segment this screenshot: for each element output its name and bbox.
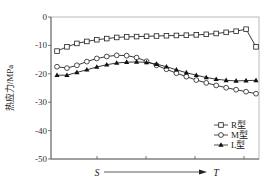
circle-marker-icon: [219, 133, 224, 138]
square-marker-icon: [214, 31, 219, 36]
series-R型: [55, 27, 259, 53]
y-tick-label: -20: [35, 69, 47, 79]
series-layer: [54, 27, 258, 96]
square-marker-icon: [244, 27, 249, 32]
circle-marker-icon: [65, 66, 70, 71]
square-marker-icon: [194, 33, 199, 38]
y-tick-label: -40: [35, 126, 47, 136]
square-marker-icon: [134, 34, 139, 39]
square-marker-icon: [144, 34, 149, 39]
x-start-label: S: [95, 167, 100, 178]
square-marker-icon: [114, 35, 119, 40]
x-end-label: T: [213, 167, 220, 178]
triangle-marker-icon: [253, 78, 258, 83]
s-to-t-arrow: [104, 170, 207, 175]
y-axis: 0-10-20-30-40-50: [35, 12, 51, 164]
triangle-marker-icon: [124, 59, 129, 64]
square-marker-icon: [219, 123, 224, 128]
square-marker-icon: [224, 30, 229, 35]
circle-marker-icon: [84, 59, 89, 64]
y-axis-title: 热应力/MPa: [4, 65, 15, 112]
square-marker-icon: [154, 34, 159, 39]
square-marker-icon: [85, 39, 90, 44]
square-marker-icon: [174, 33, 179, 38]
circle-marker-icon: [55, 64, 60, 69]
square-marker-icon: [204, 32, 209, 37]
square-marker-icon: [104, 36, 109, 41]
circle-marker-icon: [244, 89, 249, 94]
square-marker-icon: [254, 45, 259, 50]
y-tick-label: -50: [35, 154, 47, 164]
circle-marker-icon: [224, 85, 229, 90]
square-marker-icon: [95, 37, 100, 42]
square-marker-icon: [65, 45, 70, 50]
circle-marker-icon: [254, 91, 259, 96]
square-marker-icon: [75, 41, 80, 46]
thermal-stress-chart: 0-10-20-30-40-50 R型M型L型 热应力/MPa S T: [0, 0, 275, 189]
triangle-marker-icon: [54, 72, 59, 77]
circle-marker-icon: [114, 53, 119, 58]
y-tick-label: 0: [43, 12, 48, 22]
legend-label: R型: [231, 120, 246, 130]
x-axis: [51, 156, 259, 159]
triangle-marker-icon: [134, 59, 139, 64]
circle-marker-icon: [75, 63, 80, 68]
square-marker-icon: [124, 35, 129, 40]
legend: R型M型L型: [214, 120, 248, 150]
circle-marker-icon: [104, 54, 109, 59]
legend-item: L型: [214, 140, 246, 150]
square-marker-icon: [55, 49, 60, 54]
circle-marker-icon: [94, 56, 99, 61]
circle-marker-icon: [194, 78, 199, 83]
square-marker-icon: [234, 29, 239, 34]
circle-marker-icon: [184, 74, 189, 79]
square-marker-icon: [184, 33, 189, 38]
circle-marker-icon: [214, 83, 219, 88]
series-M型: [55, 53, 259, 96]
circle-marker-icon: [204, 80, 209, 85]
circle-marker-icon: [124, 53, 129, 58]
legend-label: L型: [231, 140, 246, 150]
circle-marker-icon: [234, 87, 239, 92]
y-tick-label: -10: [35, 40, 47, 50]
triangle-marker-icon: [218, 142, 223, 147]
legend-item: R型: [214, 120, 246, 130]
y-tick-label: -30: [35, 97, 47, 107]
legend-item: M型: [214, 130, 248, 140]
square-marker-icon: [164, 33, 169, 38]
legend-label: M型: [231, 130, 248, 140]
